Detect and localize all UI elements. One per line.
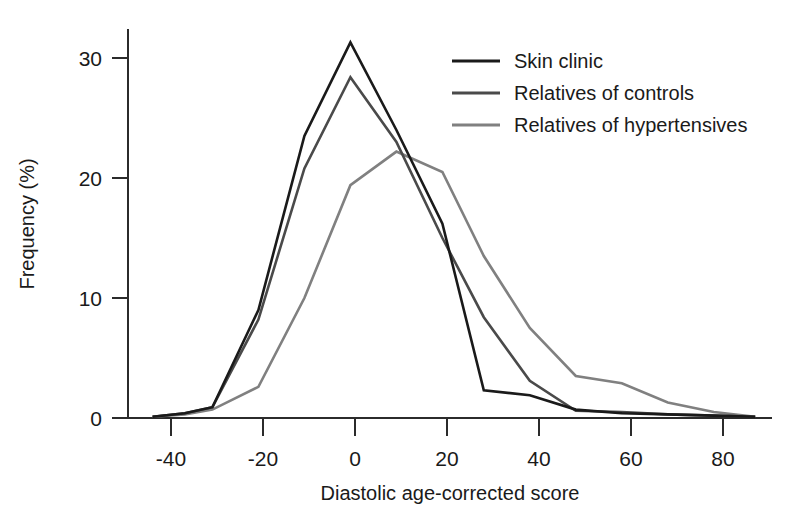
figure-container: 0102030 -40-20020406080 Diastolic age-co… — [0, 0, 790, 531]
x-tick-label: 0 — [349, 447, 361, 470]
x-tick-label: 60 — [619, 447, 642, 470]
legend: Skin clinicRelatives of controlsRelative… — [452, 50, 747, 136]
y-tick-label: 10 — [79, 287, 102, 310]
y-tick-label: 0 — [90, 407, 102, 430]
x-tick-label: 80 — [711, 447, 734, 470]
x-tick-label: -20 — [248, 447, 278, 470]
series-line — [153, 152, 756, 417]
y-axis-title: Frequency (%) — [16, 158, 38, 289]
y-axis-ticks: 0102030 — [79, 47, 128, 430]
legend-label: Skin clinic — [514, 50, 603, 72]
line-chart: 0102030 -40-20020406080 Diastolic age-co… — [0, 0, 790, 531]
y-tick-label: 20 — [79, 167, 102, 190]
y-tick-label: 30 — [79, 47, 102, 70]
x-axis-title: Diastolic age-corrected score — [321, 482, 580, 504]
legend-label: Relatives of controls — [514, 82, 694, 104]
legend-label: Relatives of hypertensives — [514, 114, 747, 136]
x-tick-label: -40 — [156, 447, 186, 470]
x-axis-ticks: -40-20020406080 — [156, 418, 735, 470]
x-tick-label: 40 — [527, 447, 550, 470]
x-tick-label: 20 — [435, 447, 458, 470]
